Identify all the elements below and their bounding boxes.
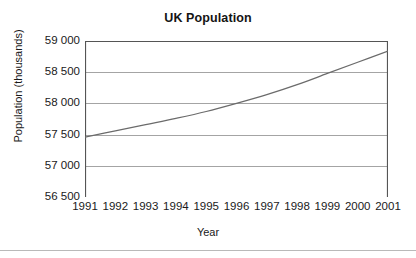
x-tick-label: 2001 (366, 201, 410, 213)
chart-figure: UK Population 56 50057 00057 50058 00058… (0, 0, 416, 258)
y-tick-label: 58 000 (18, 97, 80, 109)
data-series-line (85, 51, 388, 137)
footer-divider (0, 250, 416, 251)
x-axis-label: Year (0, 226, 416, 238)
plot-svg (85, 41, 388, 197)
y-axis-label: Population (thousands) (12, 0, 24, 176)
y-tick-label: 57 500 (18, 129, 80, 141)
gridlines (85, 42, 388, 198)
y-tick-label: 58 500 (18, 66, 80, 78)
y-tick-label: 57 000 (18, 160, 80, 172)
y-tick-label: 59 000 (18, 35, 80, 47)
plot-area (85, 41, 388, 197)
